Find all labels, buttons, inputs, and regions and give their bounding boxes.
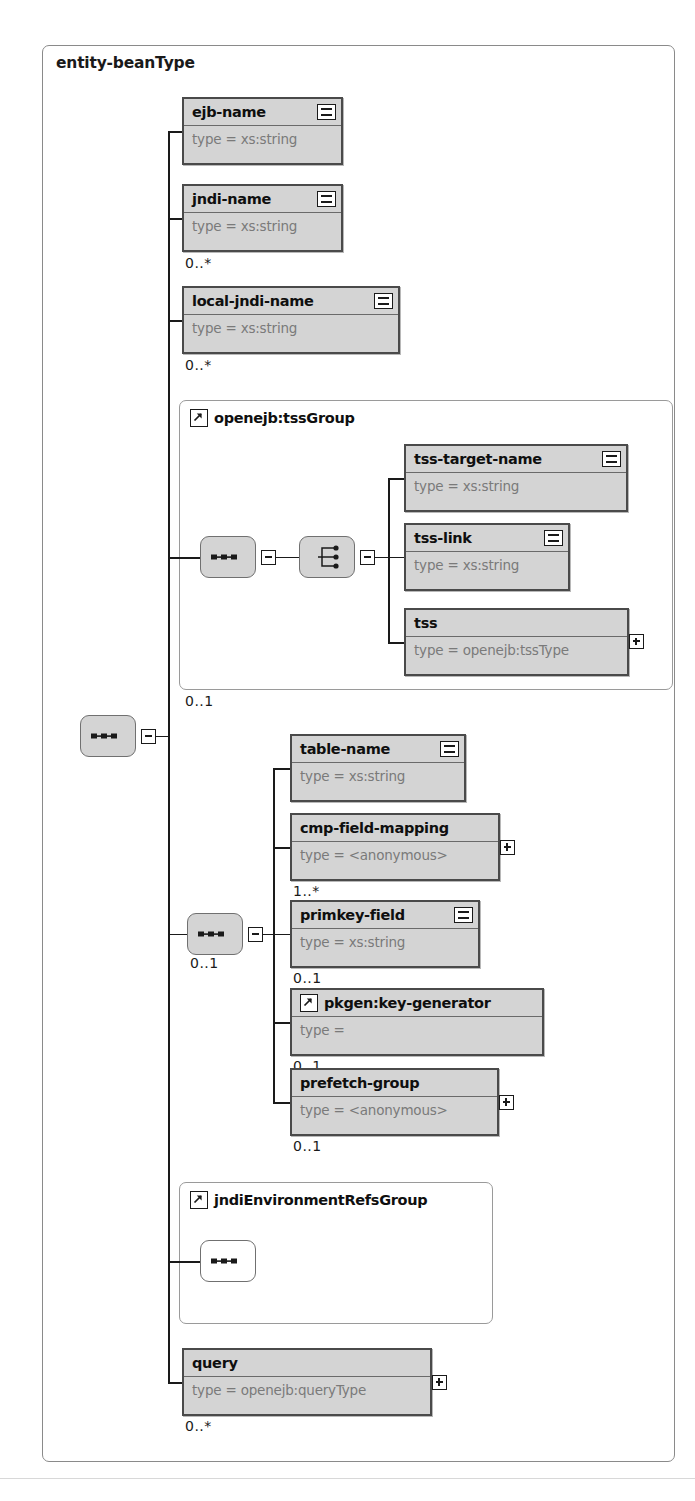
- element-name: jndi-name: [192, 191, 271, 207]
- expander-prefetch-group[interactable]: [499, 1095, 514, 1110]
- element-tss[interactable]: tss type = openejb:tssType: [404, 608, 629, 676]
- compositor-jndi-sequence[interactable]: [200, 1240, 256, 1282]
- element-type-row: type = <anonymous>: [292, 842, 498, 868]
- element-type: type = xs:string: [300, 934, 405, 950]
- connector: [168, 934, 188, 936]
- element-cmp-field-mapping[interactable]: cmp-field-mapping type = <anonymous>: [290, 813, 500, 881]
- element-type: type = <anonymous>: [300, 1102, 448, 1118]
- group-ref-arrow-icon: [190, 409, 208, 427]
- element-type-row: type =: [292, 1017, 542, 1043]
- connector: [168, 218, 183, 220]
- connector-spine-tss: [388, 478, 390, 643]
- element-type-row: type = <anonymous>: [292, 1097, 497, 1123]
- group-label-jndiEnvironmentRefsGroup: jndiEnvironmentRefsGroup: [190, 1191, 427, 1209]
- element-name-row: local-jndi-name: [184, 288, 398, 315]
- choice-icon: [312, 544, 342, 570]
- element-pkgen-key-generator[interactable]: pkgen:key-generator type =: [290, 988, 544, 1056]
- element-table-name[interactable]: table-name type = xs:string: [290, 734, 466, 802]
- compositor-cmp-sequence-toggle[interactable]: [248, 927, 263, 942]
- element-name: tss-link: [414, 530, 472, 546]
- equals-icon: [440, 741, 459, 757]
- element-name-row: ejb-name: [184, 99, 341, 126]
- xsd-diagram-canvas: entity-beanType ejb-name type = xs:strin…: [0, 0, 695, 1501]
- element-type: type = xs:string: [192, 218, 297, 234]
- compositor-root-sequence[interactable]: [80, 715, 136, 757]
- element-type: type = xs:string: [414, 478, 519, 494]
- element-prefetch-group[interactable]: prefetch-group type = <anonymous>: [290, 1068, 499, 1136]
- element-name: cmp-field-mapping: [300, 820, 449, 836]
- sequence-icon: [211, 1256, 245, 1266]
- element-type-row: type = openejb:tssType: [406, 637, 627, 663]
- element-name-row: tss-link: [406, 525, 568, 552]
- element-type-row: type = xs:string: [292, 763, 464, 789]
- cardinality-query: 0..*: [185, 1418, 212, 1434]
- element-type-row: type = xs:string: [292, 929, 478, 955]
- element-type-row: type = xs:string: [184, 213, 341, 239]
- element-type-row: type = openejb:queryType: [184, 1377, 430, 1403]
- sequence-icon: [91, 731, 125, 741]
- element-type: type =: [300, 1022, 345, 1038]
- expander-query[interactable]: [432, 1375, 447, 1390]
- cardinality-primkey-field: 0..1: [293, 970, 322, 986]
- element-local-jndi-name[interactable]: local-jndi-name type = xs:string: [182, 286, 400, 354]
- group-label-text: jndiEnvironmentRefsGroup: [214, 1192, 427, 1208]
- connector: [273, 768, 291, 770]
- equals-icon: [317, 104, 336, 120]
- element-name: primkey-field: [300, 907, 405, 923]
- element-name-row: prefetch-group: [292, 1070, 497, 1097]
- element-name: tss: [414, 615, 437, 631]
- connector: [276, 557, 300, 559]
- element-jndi-name[interactable]: jndi-name type = xs:string: [182, 184, 343, 252]
- element-type: type = openejb:queryType: [192, 1382, 366, 1398]
- cardinality-prefetch-group: 0..1: [293, 1138, 322, 1154]
- element-query[interactable]: query type = openejb:queryType: [182, 1348, 432, 1416]
- compositor-tss-sequence-toggle[interactable]: [261, 550, 276, 565]
- expander-cmp-field-mapping[interactable]: [500, 840, 515, 855]
- element-name: pkgen:key-generator: [324, 995, 491, 1011]
- element-name-row: tss-target-name: [406, 446, 626, 473]
- element-type: type = openejb:tssType: [414, 642, 569, 658]
- compositor-tss-choice[interactable]: [299, 536, 355, 578]
- element-name-row: primkey-field: [292, 902, 478, 929]
- equals-icon: [602, 451, 621, 467]
- connector: [168, 1261, 201, 1263]
- connector: [168, 557, 201, 559]
- element-primkey-field[interactable]: primkey-field type = xs:string: [290, 900, 480, 968]
- element-ejb-name[interactable]: ejb-name type = xs:string: [182, 97, 343, 165]
- element-type: type = xs:string: [414, 557, 519, 573]
- equals-icon: [374, 293, 393, 309]
- cardinality-cmp-sequence: 0..1: [190, 955, 219, 971]
- cardinality-tss-group: 0..1: [185, 693, 214, 709]
- compositor-cmp-sequence[interactable]: [187, 913, 243, 955]
- element-name: table-name: [300, 741, 390, 757]
- element-name-row: cmp-field-mapping: [292, 815, 498, 842]
- compositor-root-toggle[interactable]: [141, 729, 156, 744]
- element-name-row: jndi-name: [184, 186, 341, 213]
- element-name: prefetch-group: [300, 1075, 419, 1091]
- expander-tss[interactable]: [629, 634, 644, 649]
- cardinality-local-jndi-name: 0..*: [185, 357, 212, 373]
- cardinality-cmp-field-mapping: 1..*: [293, 883, 320, 899]
- connector-spine-main: [168, 131, 170, 1383]
- element-type: type = xs:string: [300, 768, 405, 784]
- element-type: type = xs:string: [192, 131, 297, 147]
- element-name-row: tss: [406, 610, 627, 637]
- element-type-row: type = xs:string: [406, 552, 568, 578]
- sequence-icon: [198, 929, 232, 939]
- connector: [388, 557, 405, 559]
- connector: [388, 642, 405, 644]
- element-name-row: query: [184, 1350, 430, 1377]
- element-tss-link[interactable]: tss-link type = xs:string: [404, 523, 570, 591]
- group-ref-arrow-icon: [190, 1191, 208, 1209]
- connector: [273, 934, 291, 936]
- connector: [273, 1022, 291, 1024]
- element-tss-target-name[interactable]: tss-target-name type = xs:string: [404, 444, 628, 512]
- element-type: type = <anonymous>: [300, 847, 448, 863]
- equals-icon: [544, 530, 563, 546]
- group-ref-arrow-icon: [300, 994, 318, 1012]
- sequence-icon: [211, 552, 245, 562]
- compositor-tss-sequence[interactable]: [200, 536, 256, 578]
- compositor-tss-choice-toggle[interactable]: [360, 550, 375, 565]
- element-type: type = xs:string: [192, 320, 297, 336]
- element-name-row: pkgen:key-generator: [292, 990, 542, 1017]
